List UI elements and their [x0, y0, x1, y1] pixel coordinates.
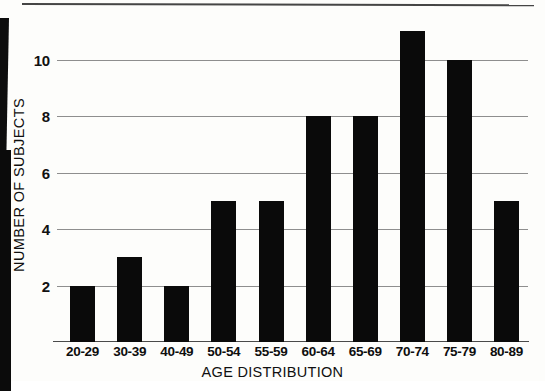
y-axis-title-wrap: NUMBER OF SUBJECTS: [6, 80, 32, 290]
x-tick-label: 20-29: [66, 344, 99, 359]
bars-group: [57, 22, 528, 342]
bar: [306, 116, 331, 342]
top-horizontal-rule: [22, 3, 534, 6]
x-tick-label: 65-69: [349, 344, 382, 359]
x-tick-label: 70-74: [396, 344, 429, 359]
bar: [400, 31, 425, 342]
x-tick-label: 75-79: [443, 344, 476, 359]
y-tick-label: 8: [42, 108, 50, 125]
bar: [164, 286, 189, 343]
bar: [70, 286, 95, 343]
x-axis-title: AGE DISTRIBUTION: [0, 364, 545, 380]
x-tick-label: 55-59: [254, 344, 287, 359]
bar-chart-figure: 246810 20-2930-3940-4950-5455-5960-6465-…: [0, 0, 545, 391]
x-tick-label: 80-89: [490, 344, 523, 359]
bar: [353, 116, 378, 342]
y-axis-title: NUMBER OF SUBJECTS: [11, 98, 27, 272]
bar: [494, 201, 519, 342]
bar: [117, 257, 142, 342]
y-tick-label: 10: [34, 51, 50, 68]
scan-bottom-fade: [11, 381, 545, 391]
y-tick-label: 2: [42, 277, 50, 294]
bar: [259, 201, 284, 342]
bar: [447, 60, 472, 343]
x-tick-label: 60-64: [302, 344, 335, 359]
bar: [211, 201, 236, 342]
x-tick-label: 40-49: [160, 344, 193, 359]
plot-area: 246810: [57, 20, 528, 342]
y-tick-label: 4: [42, 221, 50, 238]
x-tick-label: 30-39: [113, 344, 146, 359]
x-tick-label: 50-54: [207, 344, 240, 359]
y-tick-label: 6: [42, 164, 50, 181]
